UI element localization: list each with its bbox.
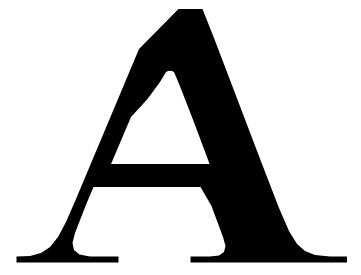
- glyph-canvas: Capital letter A: [0, 0, 361, 275]
- letter-a-glyph: Capital letter A: [0, 0, 361, 275]
